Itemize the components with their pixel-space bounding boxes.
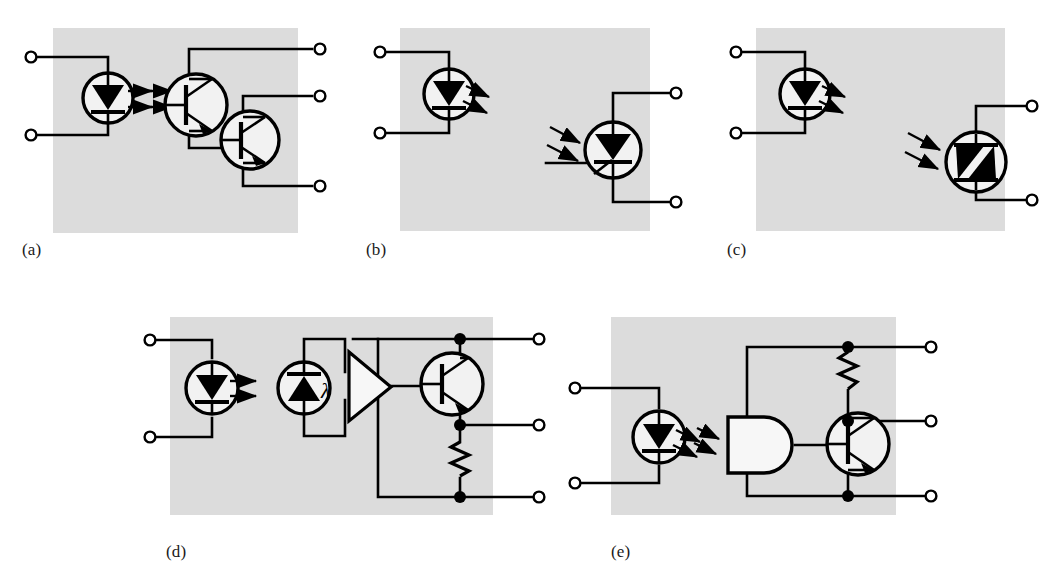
panel-a-terminal-out-2 (315, 91, 326, 102)
panel-e-junction-dot-ground (842, 490, 854, 502)
panel-d-terminal-in-2 (145, 432, 156, 443)
panel-b-terminal-in-2 (375, 128, 386, 139)
panel-b-terminal-out-1 (671, 88, 682, 99)
panel-e-terminal-in-1 (570, 383, 581, 394)
panel-a-terminal-in-1 (26, 52, 37, 63)
panel-d-junction-dot-ground (454, 491, 466, 503)
panel-e-logic-gate-body (728, 417, 792, 473)
panel-caption-e: (e) (611, 542, 630, 562)
panel-d-terminal-out-1 (534, 334, 545, 345)
panel-caption-d: (d) (166, 542, 186, 562)
panel-c-terminal-out-1 (1027, 101, 1038, 112)
panel-e-terminal-in-2 (570, 478, 581, 489)
panel-e-junction-dot-supply (842, 341, 854, 353)
panel-d-junction-dot-collector (454, 333, 466, 345)
panel-b-terminal-out-2 (671, 197, 682, 208)
schematic-canvas: λ (0, 0, 1064, 578)
panel-d-junction-dot-emitter (454, 419, 466, 431)
panel-a-terminal-out-3 (315, 181, 326, 192)
panel-caption-b: (b) (366, 240, 386, 260)
panel-e-terminal-out-1 (926, 342, 937, 353)
panel-caption-c: (c) (727, 240, 746, 260)
figure-root: λ (0, 0, 1064, 578)
panel-a-terminal-out-1 (315, 44, 326, 55)
panel-c-terminal-out-2 (1027, 195, 1038, 206)
panel-e-terminal-out-3 (926, 491, 937, 502)
panel-c-background (756, 28, 1005, 231)
panel-d-lambda-label: λ (320, 379, 330, 403)
panel-d-terminal-out-2 (534, 420, 545, 431)
panel-b-terminal-in-1 (375, 47, 386, 58)
panel-c-terminal-in-2 (731, 128, 742, 139)
panel-caption-a: (a) (22, 240, 41, 260)
panel-d-background (170, 317, 493, 515)
panel-a-terminal-in-2 (26, 130, 37, 141)
panel-e-junction-dot-mid (842, 415, 854, 427)
panel-c-terminal-in-1 (731, 47, 742, 58)
panel-d-terminal-in-1 (145, 335, 156, 346)
panel-d-terminal-out-3 (534, 492, 545, 503)
panel-e-terminal-out-2 (926, 416, 937, 427)
